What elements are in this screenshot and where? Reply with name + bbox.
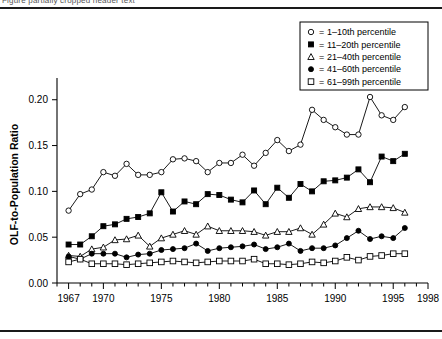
data-point-open-circle (240, 152, 245, 157)
legend-equals-sign: = (319, 52, 324, 62)
data-point-filled-square (217, 193, 222, 198)
data-point-filled-square (194, 202, 199, 207)
data-point-filled-square (78, 242, 83, 247)
legend-group[interactable]: =1–10th percentile=11–20th percentile=21… (300, 22, 428, 90)
data-point-filled-square (240, 200, 245, 205)
data-point-filled-square (368, 180, 373, 185)
data-point-open-square (77, 256, 83, 262)
data-point-open-square (286, 262, 292, 268)
data-point-filled-square (89, 234, 94, 239)
y-tick-label: 0.15 (29, 140, 49, 151)
data-point-open-triangle (181, 228, 187, 234)
data-point-filled-square (205, 192, 210, 197)
data-point-open-triangle (205, 223, 211, 229)
data-point-open-square (170, 258, 176, 264)
data-point-filled-circle (309, 67, 314, 72)
data-point-filled-circle (240, 244, 245, 249)
legend-equals-sign: = (319, 40, 324, 50)
data-point-open-square (251, 256, 257, 262)
data-point-filled-circle (275, 245, 280, 250)
clipped-header-line: Figure partially cropped header text (2, 0, 302, 5)
data-point-open-square (298, 261, 304, 267)
data-point-open-square (367, 254, 373, 260)
data-point-open-square (308, 79, 314, 85)
data-point-filled-square (147, 211, 152, 216)
data-point-open-square (390, 251, 396, 257)
data-point-open-circle (344, 132, 349, 137)
legend-item-5[interactable]: =61–99th percentile (308, 77, 401, 87)
data-point-open-circle (321, 117, 326, 122)
data-point-open-circle (263, 150, 268, 155)
data-point-filled-circle (124, 255, 129, 260)
data-point-open-circle (147, 172, 152, 177)
data-point-filled-square (275, 185, 280, 190)
data-point-open-square (147, 260, 153, 266)
data-point-open-square (124, 262, 130, 268)
data-point-open-circle (402, 104, 407, 109)
data-point-open-circle (333, 125, 338, 130)
data-point-filled-square (309, 42, 314, 47)
data-point-filled-square (252, 188, 257, 193)
data-point-filled-circle (333, 243, 338, 248)
data-point-filled-square (310, 189, 315, 194)
data-point-filled-square (112, 222, 117, 227)
data-point-filled-circle (89, 251, 94, 256)
data-point-filled-circle (391, 236, 396, 241)
y-tick-label: 0.10 (29, 186, 49, 197)
x-tick-label: 1967 (57, 293, 80, 304)
data-point-open-square (205, 259, 211, 265)
top-divider-rule (0, 7, 442, 9)
x-tick-label: 1970 (92, 293, 115, 304)
data-point-filled-circle (228, 245, 233, 250)
legend-item-4[interactable]: =41–60th percentile (309, 64, 402, 74)
data-point-open-circle (159, 169, 164, 174)
legend-item-3[interactable]: =21–40th percentile (308, 52, 401, 62)
series-1 (66, 94, 408, 213)
data-point-filled-circle (252, 242, 257, 247)
legend-item-label: 61–99th percentile (327, 77, 401, 87)
legend-item-1[interactable]: =1–10th percentile (308, 27, 396, 37)
data-point-open-circle (298, 142, 303, 147)
data-point-filled-circle (101, 251, 106, 256)
data-point-filled-square (136, 215, 141, 220)
x-tick-label: 1995 (382, 293, 405, 304)
data-point-filled-square (182, 199, 187, 204)
data-point-open-circle (308, 29, 313, 34)
data-point-open-square (379, 253, 385, 259)
data-point-filled-square (159, 190, 164, 195)
data-point-filled-circle (170, 247, 175, 252)
data-point-open-square (332, 258, 338, 264)
data-point-open-square (159, 259, 165, 265)
legend-item-label: 21–40th percentile (327, 52, 401, 62)
data-point-filled-circle (298, 248, 303, 253)
data-point-filled-circle (217, 246, 222, 251)
y-axis-title: OLF-to-Population Ratio (8, 124, 20, 245)
data-point-open-circle (217, 160, 222, 165)
data-point-filled-square (356, 167, 361, 172)
legend-item-label: 1–10th percentile (327, 27, 396, 37)
data-point-open-square (101, 261, 107, 267)
data-point-open-square (240, 258, 246, 264)
legend-item-2[interactable]: =11–20th percentile (309, 40, 401, 50)
series-line (69, 207, 405, 256)
data-point-open-circle (89, 187, 94, 192)
data-point-open-square (321, 260, 327, 266)
data-point-open-circle (251, 163, 256, 168)
data-point-open-triangle (402, 209, 408, 215)
data-point-open-circle (379, 113, 384, 118)
data-point-open-square (402, 251, 408, 257)
data-point-open-circle (135, 172, 140, 177)
x-tick-label: 1998 (417, 293, 440, 304)
data-point-filled-circle (402, 226, 407, 231)
legend-item-label: 11–20th percentile (327, 40, 400, 50)
data-point-open-square (135, 261, 141, 267)
data-point-filled-circle (368, 237, 373, 242)
data-point-open-triangle (332, 210, 338, 216)
data-point-filled-circle (136, 252, 141, 257)
data-point-open-square (274, 261, 280, 267)
data-point-filled-circle (344, 236, 349, 241)
data-point-open-circle (193, 158, 198, 163)
data-point-open-circle (101, 169, 106, 174)
data-point-open-circle (205, 169, 210, 174)
data-point-open-square (66, 259, 72, 265)
